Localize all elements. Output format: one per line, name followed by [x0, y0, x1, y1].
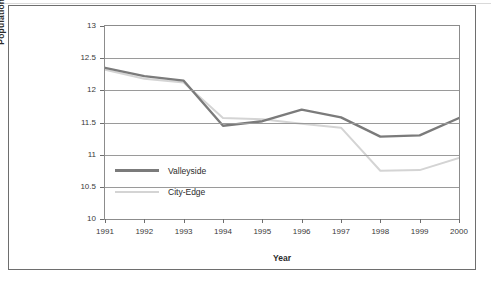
x-tick-label: 1996: [282, 227, 322, 236]
x-axis-title: Year: [104, 253, 460, 263]
series-line-valleyside: [105, 68, 459, 137]
x-tick-mark: [341, 219, 342, 223]
x-tick-mark: [184, 219, 185, 223]
cropped-top-edge-artifact: [0, 0, 491, 4]
y-tick-label: 12.5: [56, 53, 96, 62]
x-tick-mark: [223, 219, 224, 223]
legend-item: Valleyside: [115, 160, 206, 181]
y-axis-title: Population (thousands): [0, 0, 6, 60]
x-tick-label: 1999: [400, 227, 440, 236]
x-tick-mark: [144, 219, 145, 223]
chart-legend: ValleysideCity-Edge: [115, 160, 206, 202]
chart-figure: Population (thousands) 1010.51111.51212.…: [0, 0, 491, 282]
y-tick-label: 11: [56, 150, 96, 159]
x-tick-mark: [380, 219, 381, 223]
x-tick-mark: [105, 219, 106, 223]
gridline: [105, 58, 459, 59]
x-tick-label: 1992: [124, 227, 164, 236]
y-tick-label: 10: [56, 214, 96, 223]
x-tick-label: 1997: [321, 227, 361, 236]
legend-item: City-Edge: [115, 181, 206, 202]
x-tick-label: 1991: [85, 227, 125, 236]
gridline: [105, 90, 459, 91]
x-tick-mark: [459, 219, 460, 223]
y-tick-label: 12: [56, 85, 96, 94]
x-tick-mark: [420, 219, 421, 223]
legend-label: Valleyside: [168, 166, 206, 176]
legend-swatch: [115, 191, 159, 193]
legend-label: City-Edge: [168, 187, 205, 197]
x-tick-label: 1993: [164, 227, 204, 236]
x-tick-mark: [302, 219, 303, 223]
gridline: [105, 155, 459, 156]
x-tick-label: 1995: [242, 227, 282, 236]
y-tick-label: 13: [56, 21, 96, 30]
x-tick-mark: [262, 219, 263, 223]
x-tick-label: 2000: [439, 227, 479, 236]
x-tick-label: 1998: [360, 227, 400, 236]
y-tick-label: 10.5: [56, 182, 96, 191]
legend-swatch: [115, 169, 159, 172]
x-tick-label: 1994: [203, 227, 243, 236]
gridline: [105, 123, 459, 124]
y-tick-label: 11.5: [56, 118, 96, 127]
